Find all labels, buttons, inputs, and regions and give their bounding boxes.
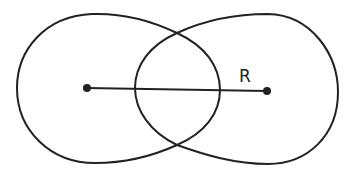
- left-center-dot: [83, 84, 91, 92]
- overlap-diagram: R: [0, 0, 358, 176]
- label-r: R: [239, 66, 251, 86]
- right-center-dot: [263, 87, 271, 95]
- radius-line: [87, 88, 267, 91]
